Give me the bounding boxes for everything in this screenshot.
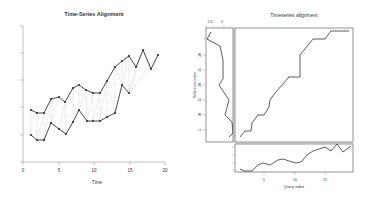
query-bottom-panel: 5 10 15 Query index [232,143,353,189]
svg-text:5: 5 [198,129,202,131]
svg-text:2.6: 2.6 [208,20,213,24]
svg-text:15: 15 [198,98,202,102]
alignment-lines [31,50,158,140]
svg-text:15: 15 [323,178,327,182]
right-chart-timeseries-alignment: Timeseries alignment 2.6 5 [193,12,353,189]
svg-text:5: 5 [221,20,223,24]
svg-text:10: 10 [293,178,297,182]
left-x-axis [23,162,165,165]
chart-canvas: Time-Series Alignment 0 5 10 15 20 Time [0,0,372,199]
warping-path [240,31,349,137]
right-chart-title: Timeseries alignment [270,12,318,18]
svg-text:25: 25 [198,68,202,72]
reference-side-panel: 2.6 5 5 10 15 20 25 30 Reference index [193,20,233,142]
warping-path-panel [234,28,353,142]
query-bottom-curve [240,144,351,171]
y-axis-label-reference-index: Reference index [193,72,197,98]
svg-text:5: 5 [58,168,61,173]
svg-text:15: 15 [127,168,133,173]
left-x-axis-label: Time [92,180,102,185]
left-y-axis [20,26,23,162]
svg-text:10: 10 [198,113,202,117]
left-x-tick-labels: 0 5 10 15 20 [22,168,168,173]
left-chart-time-series-alignment: Time-Series Alignment 0 5 10 15 20 Time [20,11,168,185]
svg-text:10: 10 [91,168,97,173]
svg-text:20: 20 [198,83,202,87]
svg-text:30: 30 [198,53,202,57]
reference-rotated-curve [207,32,233,137]
left-chart-title: Time-Series Alignment [64,11,123,17]
svg-text:5: 5 [263,178,265,182]
svg-text:20: 20 [162,168,168,173]
svg-text:0: 0 [22,168,25,173]
x-axis-label-query-index: Query index [284,185,305,189]
